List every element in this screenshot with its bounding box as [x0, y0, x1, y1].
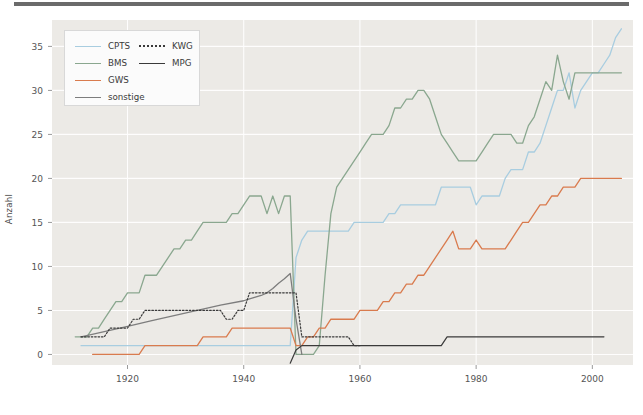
svg-text:2000: 2000 — [581, 374, 604, 384]
legend-label-cpts: CPTS — [108, 41, 130, 51]
legend-item-kwg[interactable]: KWG — [139, 41, 193, 51]
legend-label-bms: BMS — [108, 58, 127, 68]
svg-text:10: 10 — [32, 262, 44, 272]
svg-text:20: 20 — [32, 174, 44, 184]
svg-text:1960: 1960 — [348, 374, 371, 384]
legend-label-kwg: KWG — [172, 41, 193, 51]
legend-item-bms[interactable]: BMS — [75, 58, 127, 68]
legend-swatch-gws — [75, 80, 101, 81]
window-top-rule — [14, 2, 629, 6]
legend-item-mpg[interactable]: MPG — [139, 58, 191, 68]
legend-swatch-mpg — [139, 63, 165, 64]
legend-swatch-sonstige — [75, 97, 101, 98]
legend-label-mpg: MPG — [172, 58, 191, 68]
svg-text:0: 0 — [37, 350, 43, 360]
legend-swatch-cpts — [75, 46, 101, 47]
svg-text:30: 30 — [32, 86, 44, 96]
legend-swatch-bms — [75, 63, 101, 64]
svg-text:1980: 1980 — [465, 374, 488, 384]
chart-figure: Anzahl 051015202530351920194019601980200… — [0, 8, 643, 415]
svg-text:35: 35 — [32, 42, 43, 52]
svg-text:1920: 1920 — [116, 374, 139, 384]
svg-text:15: 15 — [32, 218, 43, 228]
svg-text:1940: 1940 — [232, 374, 255, 384]
legend-item-sonstige[interactable]: sonstige — [75, 92, 145, 102]
chart-legend: CPTSBMSGWSsonstigeKWGMPG — [64, 30, 200, 106]
legend-label-sonstige: sonstige — [108, 92, 145, 102]
legend-item-cpts[interactable]: CPTS — [75, 41, 130, 51]
legend-item-gws[interactable]: GWS — [75, 75, 129, 85]
svg-text:25: 25 — [32, 130, 43, 140]
svg-text:5: 5 — [37, 306, 43, 316]
legend-label-gws: GWS — [108, 75, 129, 85]
legend-swatch-kwg — [139, 45, 165, 47]
